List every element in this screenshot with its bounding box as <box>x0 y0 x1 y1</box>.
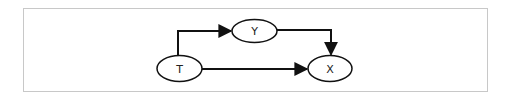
node-x-label: X <box>326 63 334 76</box>
edge-y-to-x <box>277 30 331 55</box>
node-x: X <box>308 56 352 82</box>
causal-diagram: T Y X <box>0 0 512 99</box>
node-y-label: Y <box>250 25 258 38</box>
node-t-label: T <box>175 63 183 76</box>
node-t: T <box>157 56 202 82</box>
edge-t-to-y <box>178 31 231 56</box>
node-y: Y <box>232 20 277 43</box>
